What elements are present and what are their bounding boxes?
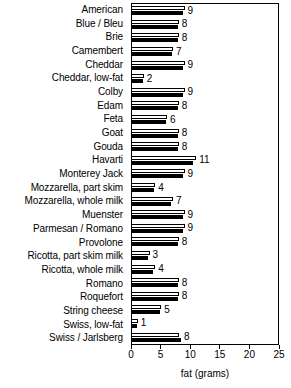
bar-value-label: 4: [155, 264, 164, 274]
bar-value-label: 9: [185, 6, 194, 16]
bar-solid: [132, 174, 183, 178]
bar-solid: [132, 147, 178, 151]
bar-row: 8: [132, 330, 278, 344]
bar-value-label: 9: [185, 223, 194, 233]
category-label: Blue / Bleu: [0, 17, 126, 31]
bar-solid: [132, 310, 160, 314]
bar-row: 9: [132, 4, 278, 18]
category-label: Goat: [0, 126, 126, 140]
bar-solid: [132, 25, 178, 29]
bar-row: 7: [132, 194, 278, 208]
bar-value-label: 8: [179, 128, 188, 138]
category-label: Gouda: [0, 140, 126, 154]
category-label: Swiss, low-fat: [0, 318, 126, 332]
x-tick-label: 25: [273, 350, 284, 360]
bar-solid: [132, 283, 178, 287]
bars-layer: 98879298688119479983488518: [132, 4, 278, 344]
bar-outline: [132, 61, 185, 65]
bar-pair: [132, 31, 278, 45]
bar-outline: [132, 237, 179, 241]
bar-outline: [132, 305, 161, 309]
bar-solid: [132, 134, 178, 138]
bar-value-label: 11: [196, 155, 209, 165]
bar-row: 8: [132, 126, 278, 140]
bar-row: 9: [132, 86, 278, 100]
bar-pair: [132, 140, 278, 154]
bar-outline: [132, 20, 179, 24]
bar-outline: [132, 115, 167, 119]
category-label: Ricotta, whole milk: [0, 263, 126, 277]
bar-solid: [132, 297, 178, 301]
category-label: Cheddar: [0, 58, 126, 72]
bar-solid: [132, 106, 178, 110]
bar-row: 4: [132, 181, 278, 195]
bar-row: 2: [132, 72, 278, 86]
bar-value-label: 2: [144, 74, 153, 84]
bar-value-label: 7: [173, 196, 182, 206]
bar-value-label: 8: [179, 33, 188, 43]
bar-outline: [132, 278, 179, 282]
bar-pair: [132, 262, 278, 276]
bar-outline: [132, 33, 179, 37]
bar-outline: [132, 6, 185, 10]
plot-area: 98879298688119479983488518: [131, 3, 279, 345]
bar-value-label: 8: [179, 291, 188, 301]
bar-pair: [132, 113, 278, 127]
bar-value-label: 8: [179, 237, 188, 247]
bar-row: 8: [132, 140, 278, 154]
bar-solid: [132, 79, 143, 83]
bar-outline: [132, 169, 185, 173]
bar-value-label: 1: [138, 318, 147, 328]
bar-pair: [132, 72, 278, 86]
bar-row: 9: [132, 167, 278, 181]
bar-pair: [132, 167, 278, 181]
bar-value-label: 9: [185, 210, 194, 220]
bar-outline: [132, 142, 179, 146]
bar-outline: [132, 197, 173, 201]
bar-row: 4: [132, 262, 278, 276]
bar-solid: [132, 202, 171, 206]
bar-pair: [132, 330, 278, 344]
bar-value-label: 9: [185, 87, 194, 97]
bar-pair: [132, 181, 278, 195]
bar-row: 8: [132, 18, 278, 32]
category-label: Parmesan / Romano: [0, 222, 126, 236]
bar-outline: [132, 292, 179, 296]
category-label: Muenster: [0, 208, 126, 222]
bar-row: 1: [132, 317, 278, 331]
bar-row: 8: [132, 276, 278, 290]
bar-row: 6: [132, 113, 278, 127]
bar-value-label: 9: [185, 60, 194, 70]
bar-solid: [132, 324, 137, 328]
bar-row: 8: [132, 289, 278, 303]
bar-outline: [132, 101, 179, 105]
bar-solid: [132, 52, 172, 56]
category-label-column: AmericanBlue / BleuBrieCamembertCheddarC…: [0, 3, 126, 345]
bar-outline: [132, 88, 185, 92]
bar-value-label: 8: [179, 278, 188, 288]
bar-value-label: 3: [150, 250, 159, 260]
category-label: Brie: [0, 30, 126, 44]
category-label: Swiss / Jarlsberg: [0, 332, 126, 346]
bar-value-label: 8: [179, 101, 188, 111]
category-label: Havarti: [0, 154, 126, 168]
category-label: Roquefort: [0, 290, 126, 304]
bar-solid: [132, 215, 183, 219]
x-tick-label: 0: [128, 350, 134, 360]
bar-value-label: 4: [155, 183, 164, 193]
bar-solid: [132, 242, 178, 246]
bar-solid: [132, 66, 183, 70]
category-label: Mozzarella, part skim: [0, 181, 126, 195]
x-tick-label: 5: [158, 350, 164, 360]
bar-pair: [132, 317, 278, 331]
bar-solid: [132, 256, 148, 260]
bar-row: 5: [132, 303, 278, 317]
bar-outline: [132, 224, 185, 228]
category-label: Feta: [0, 113, 126, 127]
bar-outline: [132, 265, 155, 269]
bar-value-label: 5: [161, 305, 170, 315]
category-label: Cheddar, low-fat: [0, 71, 126, 85]
bar-outline: [132, 47, 173, 51]
bar-outline: [132, 156, 196, 160]
bar-pair: [132, 208, 278, 222]
